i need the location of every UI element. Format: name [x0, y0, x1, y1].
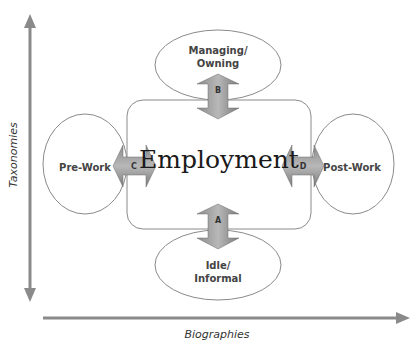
arrow-b-letter: B — [215, 86, 221, 95]
node-managing-owning-line2: Owning — [197, 58, 240, 69]
arrow-c-letter: C — [131, 162, 137, 171]
center-label-employment: Employment — [139, 145, 299, 174]
diagram-canvas: Taxonomies Biographies Managing/ Owning … — [0, 0, 416, 347]
arrow-d-letter: D — [300, 162, 307, 171]
node-post-work-label: Post-Work — [323, 162, 381, 173]
y-axis-arrow — [24, 14, 36, 302]
x-axis-arrow — [43, 312, 410, 324]
arrow-a-letter: A — [215, 216, 222, 225]
node-managing-owning-line1: Managing/ — [188, 45, 247, 56]
node-idle-informal-line2: Informal — [194, 273, 242, 284]
node-idle-informal-line1: Idle/ — [206, 260, 231, 271]
x-axis-label: Biographies — [184, 328, 249, 341]
node-pre-work-label: Pre-Work — [59, 162, 111, 173]
y-axis-label: Taxonomies — [7, 122, 20, 188]
